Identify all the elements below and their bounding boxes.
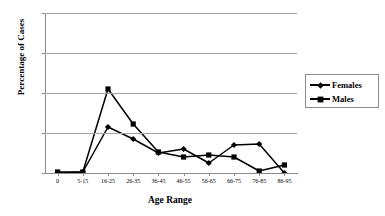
- x-tick-mark: [184, 173, 185, 176]
- x-tick-mark: [284, 173, 285, 176]
- data-point-marker: [130, 136, 136, 142]
- legend-label-females: Females: [332, 80, 362, 90]
- data-point-marker: [181, 154, 186, 159]
- data-point-marker: [231, 154, 236, 159]
- gridline: [45, 53, 297, 54]
- x-tick-label: 86-95: [264, 178, 304, 184]
- gridline: [45, 93, 297, 94]
- x-axis-title: Age Range: [45, 195, 295, 205]
- x-tick-mark: [259, 173, 260, 176]
- x-tick-mark: [133, 173, 134, 176]
- chart-figure: Percentage of Cases 020406080 05-1516-25…: [0, 0, 385, 216]
- square-marker-icon: [310, 94, 330, 104]
- x-tick-mark: [108, 173, 109, 176]
- x-tick-mark: [158, 173, 159, 176]
- legend-label-males: Males: [332, 94, 354, 104]
- diamond-marker-icon: [310, 80, 330, 90]
- data-point-marker: [105, 86, 110, 91]
- legend-entry-males: Males: [310, 92, 354, 105]
- data-point-marker: [156, 149, 161, 154]
- plot-area: [45, 13, 297, 173]
- chart-legend: Females Males: [305, 74, 379, 108]
- y-axis-title: Percentage of Cases: [16, 0, 26, 122]
- series-line-males: [58, 89, 285, 172]
- data-point-marker: [282, 162, 287, 167]
- gridline: [45, 133, 297, 134]
- legend-entry-females: Females: [310, 78, 362, 91]
- data-point-marker: [206, 152, 211, 157]
- gridline: [45, 13, 297, 14]
- y-tick-mark: [42, 173, 45, 174]
- data-point-marker: [131, 121, 136, 126]
- data-point-marker: [105, 124, 111, 130]
- x-tick-mark: [83, 173, 84, 176]
- data-point-marker: [181, 146, 187, 152]
- x-tick-mark: [58, 173, 59, 176]
- x-tick-mark: [234, 173, 235, 176]
- x-tick-mark: [209, 173, 210, 176]
